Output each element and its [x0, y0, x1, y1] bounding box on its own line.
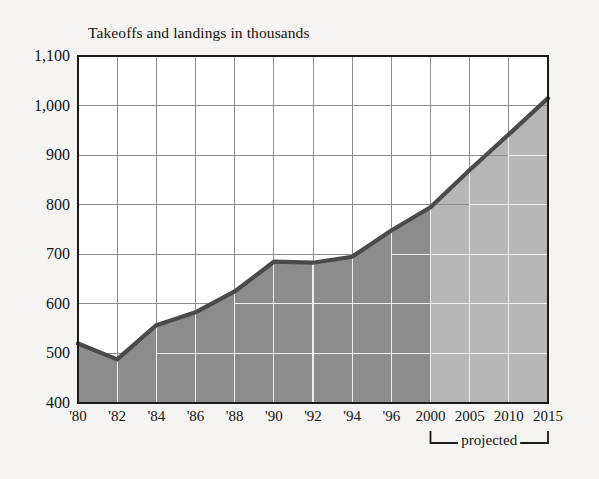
x-axis-tick-label: 2010: [494, 408, 524, 425]
chart-page: Takeoffs and landings in thousands 40050…: [0, 0, 599, 479]
x-axis-tick-label: '82: [108, 408, 126, 425]
y-axis-tick-label: 500: [2, 344, 70, 362]
x-axis-tick-label: '84: [147, 408, 165, 425]
y-axis-tick-label: 700: [2, 245, 70, 263]
y-axis-tick-label: 1,000: [2, 97, 70, 115]
x-axis-tick-label: 2005: [455, 408, 485, 425]
x-axis-tick-label: 2015: [533, 408, 563, 425]
y-axis-tick-label: 800: [2, 196, 70, 214]
y-axis-tick-label: 400: [2, 394, 70, 412]
x-axis-tick-label: '86: [187, 408, 205, 425]
x-axis-tick-label: '90: [265, 408, 283, 425]
x-axis-tick-label: '96: [382, 408, 400, 425]
x-axis-tick-label: '92: [304, 408, 322, 425]
projected-label: projected: [458, 432, 520, 449]
y-axis-tick-label: 900: [2, 146, 70, 164]
x-axis-tick-label: '80: [69, 408, 87, 425]
y-axis-tick-label: 600: [2, 295, 70, 313]
x-axis-tick-label: '88: [226, 408, 244, 425]
y-axis-tick-label: 1,100: [2, 47, 70, 65]
x-axis-tick-label: 2000: [416, 408, 446, 425]
x-axis-tick-label: '94: [343, 408, 361, 425]
